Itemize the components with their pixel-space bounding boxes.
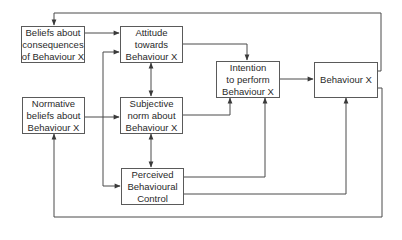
node-label-line: Attitude (135, 27, 167, 39)
node-label-line: consequences (22, 39, 83, 51)
edge-attitude-to-intention (182, 44, 247, 60)
edge-subjective-to-intention (182, 98, 230, 115)
node-label-line: to perform (226, 74, 269, 86)
node-attitude: Attitude towards Behaviour X (120, 26, 183, 63)
node-intention: Intention to perform Behaviour X (216, 61, 280, 98)
node-label-line: Control (137, 193, 168, 205)
node-label-line: Perceived (131, 169, 173, 181)
edge-pbc-to-intention (183, 98, 265, 177)
node-label-line: Subjective (130, 98, 174, 110)
node-subjective-norm: Subjective norm about Behaviour X (120, 97, 183, 134)
node-label-line: Behaviour X (126, 51, 178, 63)
node-label-line: of Behaviour X (22, 51, 84, 63)
node-normative-beliefs: Normative beliefs about Behaviour X (22, 97, 85, 134)
node-label-line: Beliefs about (26, 27, 81, 39)
node-beliefs-consequences: Beliefs about consequences of Behaviour … (21, 26, 85, 63)
node-label-line: towards (135, 39, 168, 51)
node-label-line: Behaviour X (28, 122, 80, 134)
node-label-line: Behaviour X (222, 86, 274, 98)
node-label-line: norm about (127, 110, 175, 122)
node-label-line: Behavioural (127, 181, 177, 193)
node-label-line: Behaviour X (320, 74, 372, 86)
node-perceived-behavioural-control: Perceived Behavioural Control (121, 168, 184, 205)
edge-attitude-pbc (103, 52, 120, 186)
node-label-line: Intention (230, 62, 266, 74)
node-label-line: Normative (32, 98, 75, 110)
node-behaviour-x: Behaviour X (314, 62, 378, 98)
node-label-line: beliefs about (27, 110, 81, 122)
node-label-line: Behaviour X (126, 122, 178, 134)
